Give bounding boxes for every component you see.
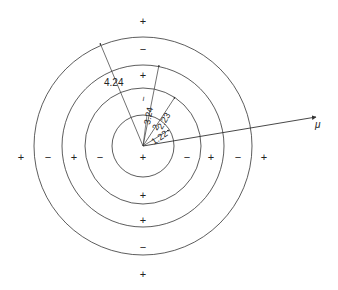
horizontal-signs: + − + − + − + − + (18, 151, 267, 163)
diagram-canvas: μ 4.24 3.24 2.23 2 1.22 − + − + − + − + … (0, 0, 338, 290)
sign: + (208, 151, 214, 163)
sign: + (140, 214, 146, 226)
sign: + (140, 268, 146, 280)
concentric-rings-diagram: μ 4.24 3.24 2.23 2 1.22 − + − + − + − + … (0, 0, 338, 290)
sign: + (140, 69, 146, 81)
sign: − (140, 43, 146, 55)
sign: − (140, 241, 146, 253)
sign: − (235, 151, 241, 163)
minus-label: − (138, 95, 149, 102)
sign: − (184, 151, 190, 163)
sign: + (261, 151, 267, 163)
sign: + (140, 15, 146, 27)
sign: − (45, 151, 51, 163)
sign: + (71, 151, 77, 163)
mu-label: μ (314, 119, 321, 130)
sign: + (140, 151, 146, 163)
sign: − (97, 151, 103, 163)
sign: + (18, 151, 24, 163)
radius-arrow-4 (100, 43, 143, 146)
ring-3-label: 3.24 (142, 106, 155, 125)
ring-4-label: 4.24 (104, 77, 124, 88)
vertical-signs: + − + + + − + (140, 15, 146, 280)
sign: + (140, 189, 146, 201)
